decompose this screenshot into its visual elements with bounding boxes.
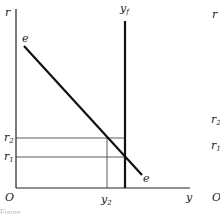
e-curve-label-end: e [143, 173, 150, 184]
yf-label-sub: f [126, 8, 129, 16]
origin-label: O [5, 192, 14, 203]
right-panel-origin-label: O [212, 192, 220, 203]
figure-caption: Figure [0, 208, 21, 214]
right-panel-r-label: r [212, 9, 217, 20]
right-r2-sub: 2 [216, 119, 220, 127]
y-axis-label: y [186, 192, 192, 203]
yf-label: yf [120, 3, 129, 16]
right-r1-sub: 1 [216, 145, 220, 153]
r2-label: r2 [4, 132, 14, 145]
y2-label: y2 [101, 194, 112, 207]
r2-label-sub: 2 [9, 137, 13, 145]
r1-label: r1 [4, 151, 14, 164]
r1-label-sub: 1 [9, 156, 13, 164]
r-axis-label: r [5, 7, 10, 18]
right-panel-r1-label: r1 [211, 140, 220, 153]
right-panel-r2-label: r2 [211, 114, 220, 127]
e-curve-label-start: e [22, 33, 29, 44]
diagram-canvas [0, 0, 220, 214]
y2-label-sub: 2 [107, 199, 111, 207]
